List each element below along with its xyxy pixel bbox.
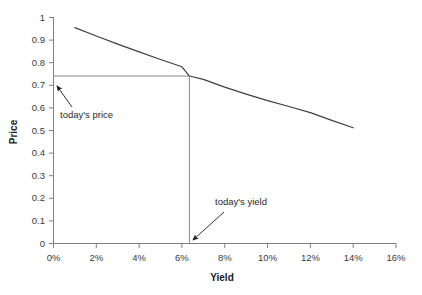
y-tick-label: 0.1 xyxy=(32,215,45,226)
price-yield-chart: 0 0.1 0.2 0.3 0.4 0.5 0.6 0.7 0.8 0.9 1 xyxy=(0,0,422,295)
y-tick-label: 0.7 xyxy=(32,79,45,90)
todays-yield-label: today's yield xyxy=(215,196,267,207)
x-axis-tick-labels: 0% 2% 4% 6% 8% 10% 12% 14% 16% xyxy=(47,252,406,263)
todays-price-label: today's price xyxy=(60,109,113,120)
y-tick-label: 0.3 xyxy=(32,170,45,181)
x-tick-label: 12% xyxy=(301,252,321,263)
x-tick-label: 16% xyxy=(386,252,406,263)
y-tick-label: 0 xyxy=(40,238,45,249)
chart-background xyxy=(0,0,422,295)
x-tick-label: 14% xyxy=(344,252,364,263)
x-axis-title: Yield xyxy=(210,272,234,283)
y-tick-label: 0.8 xyxy=(32,57,45,68)
y-tick-label: 0.9 xyxy=(32,34,45,45)
x-tick-label: 10% xyxy=(258,252,278,263)
y-tick-label: 0.6 xyxy=(32,102,45,113)
y-tick-label: 0.5 xyxy=(32,125,45,136)
x-tick-label: 0% xyxy=(47,252,61,263)
x-tick-label: 8% xyxy=(218,252,232,263)
chart-canvas: 0 0.1 0.2 0.3 0.4 0.5 0.6 0.7 0.8 0.9 1 xyxy=(0,0,422,295)
y-tick-label: 0.2 xyxy=(32,192,45,203)
y-axis-title: Price xyxy=(8,119,19,144)
x-tick-label: 6% xyxy=(175,252,189,263)
y-tick-label: 0.4 xyxy=(32,147,45,158)
y-tick-label: 1 xyxy=(40,12,45,23)
x-tick-label: 2% xyxy=(89,252,103,263)
x-tick-label: 4% xyxy=(132,252,146,263)
